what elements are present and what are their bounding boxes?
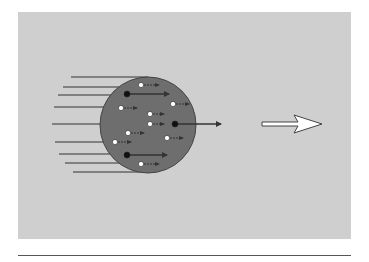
bottom-rule (18, 255, 351, 256)
direction-arrow-icon (262, 115, 322, 133)
ion-collision-diagram (0, 0, 369, 262)
